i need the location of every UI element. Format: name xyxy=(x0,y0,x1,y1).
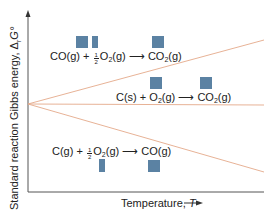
reaction-arrow-icon: ⟶ xyxy=(129,50,145,62)
reaction-label-c-to-co2: C(s) + O2(g) ⟶ CO2(g) xyxy=(116,91,231,107)
product: CO(g) xyxy=(141,145,171,157)
product-state: (g) xyxy=(168,50,181,62)
reactant-2: O xyxy=(149,91,158,103)
reaction-arrow-icon: ⟶ xyxy=(122,145,138,157)
y-axis-label-text: Standard reaction Gibbs energy, xyxy=(8,52,20,210)
gas-volume-square-co2 xyxy=(152,36,164,48)
reactant-2-state: (g) xyxy=(106,145,119,157)
line-c-to-co xyxy=(28,104,264,172)
coefficient-fraction: 12 xyxy=(87,147,92,160)
reactant-1: C(g) xyxy=(52,145,73,157)
plus-sign: + xyxy=(83,50,89,62)
product-state: (g) xyxy=(218,91,231,103)
gas-volume-square-co xyxy=(76,36,88,48)
x-axis-symbol: T xyxy=(189,197,196,209)
reaction-arrow-icon: ⟶ xyxy=(178,91,194,103)
fraction-denominator: 2 xyxy=(94,59,99,65)
fraction-numerator: 1 xyxy=(87,147,92,154)
gas-volume-square-co2 xyxy=(200,77,212,89)
y-axis-label: Standard reaction Gibbs energy, ΔrG° xyxy=(8,27,22,210)
fraction-denominator: 2 xyxy=(87,154,92,160)
fraction-numerator: 1 xyxy=(94,52,99,59)
x-axis-label-text: Temperature, xyxy=(121,197,186,209)
x-axis-label-arrow-icon xyxy=(196,201,203,206)
reactant-2: O xyxy=(93,145,102,157)
gas-volume-square-co xyxy=(148,160,160,172)
y-axis-symbol: G° xyxy=(8,27,20,40)
x-axis-label: Temperature, T xyxy=(121,197,196,209)
reactant-1: CO(g) xyxy=(50,50,80,62)
y-axis-subscript: r xyxy=(15,40,22,42)
reactant-2-state: (g) xyxy=(112,50,125,62)
product: CO xyxy=(148,50,165,62)
reaction-label-c-to-co: C(g) + 12O2(g) ⟶ CO(g) xyxy=(52,145,171,161)
reactant-2-state: (g) xyxy=(162,91,175,103)
plus-sign: + xyxy=(140,91,146,103)
reaction-label-co-to-co2: CO(g) + 12O2(g) ⟶ CO2(g) xyxy=(50,50,182,66)
plot-area xyxy=(0,0,278,218)
gas-volume-square-o2 xyxy=(150,77,162,89)
y-axis-arrow-icon xyxy=(26,10,31,17)
gas-volume-square-half-o2 xyxy=(99,159,105,172)
coefficient-fraction: 12 xyxy=(94,52,99,65)
reactant-1: C(s) xyxy=(116,91,137,103)
plus-sign: + xyxy=(76,145,82,157)
product: CO xyxy=(197,91,214,103)
y-axis-delta: Δ xyxy=(8,42,20,49)
gas-volume-square-half-o2 xyxy=(92,36,98,48)
ellingham-diagram: CO(g) + 12O2(g) ⟶ CO2(g) C(s) + O2(g) ⟶ … xyxy=(0,0,278,218)
